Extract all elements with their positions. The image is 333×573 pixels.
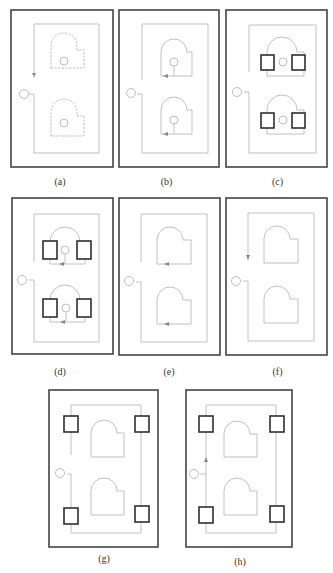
left-arrow-icon [163, 74, 168, 78]
room-top [264, 226, 298, 263]
left-arrow-icon [59, 262, 64, 266]
room-circle-bottom [170, 116, 178, 124]
diagram-b [111, 0, 222, 195]
panel-a: (a) [0, 0, 120, 195]
left-arrow-icon [164, 322, 169, 326]
caption-d: (d) [0, 366, 120, 377]
panel-g: (g) [40, 380, 170, 573]
panel-h: (h) [170, 380, 300, 573]
room-circle-top [279, 58, 287, 66]
room-top [157, 227, 191, 264]
port-circle [127, 89, 136, 98]
room-bottom-dashed [51, 99, 84, 136]
panel-b: (b) [111, 0, 222, 195]
port-circle [18, 276, 27, 285]
square-block [43, 241, 57, 259]
down-arrow-icon [32, 73, 36, 77]
caption-h: (h) [170, 556, 310, 567]
corner-square-top-right [135, 416, 149, 432]
caption-f: (f) [222, 366, 333, 377]
square-block [43, 299, 57, 317]
room-top [161, 39, 192, 76]
caption-a: (a) [0, 176, 120, 187]
frame [119, 10, 219, 167]
left-arrow-icon [60, 320, 65, 324]
square-block [292, 55, 305, 70]
corner-square-top-right [270, 416, 284, 432]
panel-f: (f) [222, 190, 333, 385]
left-arrow-icon [163, 132, 168, 136]
room-circle-bottom [279, 116, 287, 124]
diagram-e [111, 190, 222, 385]
room-circle-top [60, 57, 68, 65]
loop-path [206, 405, 276, 533]
corner-square-bottom-left [199, 507, 213, 523]
room-circle-bottom [60, 119, 68, 127]
caption-c: (c) [222, 176, 333, 187]
room-circle-top [61, 246, 69, 254]
corner-square-top-left [64, 416, 78, 432]
caption-e: (e) [111, 366, 227, 377]
port-circle [125, 277, 134, 286]
diagram-f [222, 190, 333, 385]
room-bottom [161, 97, 192, 134]
frame [12, 198, 113, 354]
panel-e: (e) [111, 190, 222, 385]
room-top [224, 421, 257, 457]
diagram-h [170, 380, 300, 573]
corner-square-bottom-left [64, 508, 78, 524]
diagram-c [222, 0, 333, 195]
loop-path [243, 213, 314, 341]
room-top [91, 420, 124, 457]
room-bottom [264, 286, 298, 323]
loop-path [136, 214, 207, 342]
port-circle [232, 277, 241, 286]
up-arrow-icon [204, 457, 208, 462]
room-circle-top [170, 58, 178, 66]
port-circle [233, 88, 242, 97]
panel-c: (c) [222, 0, 333, 195]
square-block [261, 113, 274, 128]
frame [226, 10, 327, 167]
square-block [292, 113, 305, 128]
panel-d: (d) [0, 190, 111, 385]
square-block [261, 55, 274, 70]
corner-square-bottom-right [270, 506, 284, 522]
room-bottom [91, 478, 124, 515]
room-bottom [157, 287, 191, 324]
caption-b: (b) [111, 176, 222, 187]
room-circle-bottom [62, 304, 70, 312]
left-arrow-icon [164, 262, 169, 266]
port-circle [20, 90, 29, 99]
room-bottom [224, 478, 257, 515]
port-circle [56, 469, 65, 478]
frame [226, 198, 327, 355]
loop-path [29, 24, 99, 153]
port-circle [190, 470, 199, 479]
square-block [77, 241, 91, 259]
square-block [77, 299, 91, 317]
down-arrow-icon [246, 255, 250, 260]
corner-square-top-left [199, 416, 213, 432]
caption-g: (g) [40, 553, 168, 564]
frame [119, 198, 220, 355]
diagram-a [0, 0, 120, 195]
diagram-g [40, 380, 170, 573]
diagram-d [0, 190, 111, 385]
corner-square-bottom-right [135, 506, 149, 522]
